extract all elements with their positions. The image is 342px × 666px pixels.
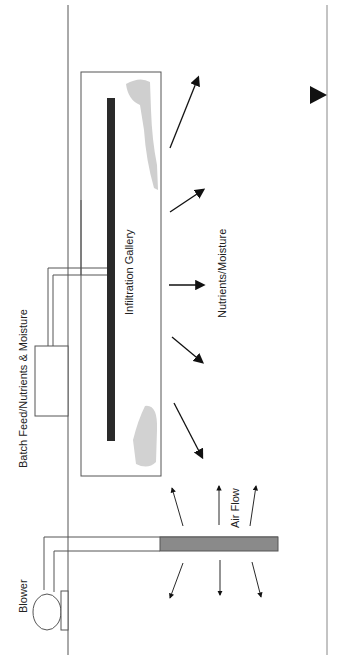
- gallery-pipe: [107, 98, 115, 441]
- plume-top: [126, 79, 158, 190]
- bioventing-diagram: [0, 0, 342, 666]
- blower-icon: [33, 594, 61, 630]
- plume-bottom: [133, 406, 157, 467]
- batch-feed-label: Batch Feed/Nutrients & Moisture: [17, 309, 29, 468]
- well-screen: [160, 537, 278, 551]
- well-pipe-inner: [54, 551, 160, 592]
- infiltration-gallery-label: Infiltration Gallery: [123, 229, 135, 315]
- nutrients-moisture-label: Nutrients/Moisture: [216, 229, 228, 318]
- nutrient-arrows: [169, 78, 203, 457]
- feed-pipe-inner: [53, 275, 107, 346]
- water-table-marker-icon: [310, 86, 327, 104]
- air-flow-label: Air Flow: [229, 488, 241, 528]
- blower-label: Blower: [17, 579, 29, 613]
- feed-pipe-outer: [48, 268, 107, 346]
- batch-feed-tank: [35, 346, 68, 416]
- blower-base: [61, 591, 68, 630]
